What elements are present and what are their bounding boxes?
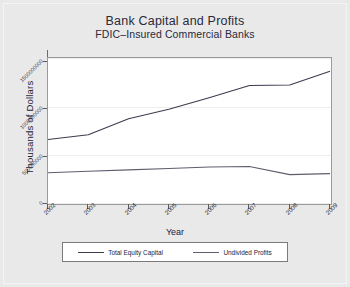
legend-line-icon xyxy=(193,252,219,253)
x-axis-title: Year xyxy=(0,227,350,237)
chart-figure: Bank Capital and Profits FDIC–Insured Co… xyxy=(0,0,350,287)
series-lines xyxy=(48,58,331,204)
series-line-2 xyxy=(48,167,330,175)
plot-area xyxy=(47,57,332,205)
legend-item-1[interactable]: Total Equity Capital xyxy=(78,249,163,256)
legend-item-2[interactable]: Undivided Profits xyxy=(193,249,271,256)
title-block: Bank Capital and Profits FDIC–Insured Co… xyxy=(0,14,350,41)
chart-legend: Total Equity CapitalUndivided Profits xyxy=(62,242,288,262)
legend-line-icon xyxy=(78,252,104,253)
legend-label: Undivided Profits xyxy=(223,249,271,256)
legend-label: Total Equity Capital xyxy=(108,249,163,256)
series-line-1 xyxy=(48,71,330,139)
chart-subtitle: FDIC–Insured Commercial Banks xyxy=(0,28,350,41)
page-title: Bank Capital and Profits xyxy=(0,14,350,28)
